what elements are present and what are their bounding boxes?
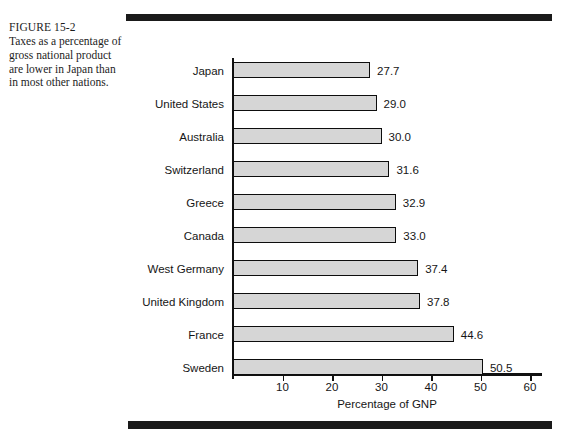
bar-row: West Germany37.4: [0, 258, 578, 280]
bar-category-label: Japan: [64, 60, 224, 82]
bar: [233, 95, 377, 111]
bar: [233, 260, 418, 276]
bar-chart: Japan27.7United States29.0Australia30.0S…: [0, 0, 578, 439]
bar-row: Canada33.0: [0, 225, 578, 247]
bar: [233, 293, 420, 309]
x-axis-tick-label: 10: [276, 381, 289, 393]
bar-category-label: United Kingdom: [64, 291, 224, 313]
bar-row: Sweden50.5: [0, 357, 578, 379]
bar-category-label: Sweden: [64, 357, 224, 379]
bar-row: United Kingdom37.8: [0, 291, 578, 313]
x-axis-tick-mark: [530, 374, 532, 381]
x-axis-tick-mark: [382, 374, 384, 381]
bar-category-label: Australia: [64, 126, 224, 148]
bar: [233, 194, 396, 210]
bar-value-label: 44.6: [461, 324, 483, 346]
x-axis-tick-label: 40: [425, 381, 438, 393]
bar-row: Australia30.0: [0, 126, 578, 148]
bar: [233, 161, 389, 177]
x-axis-tick-mark: [481, 374, 483, 381]
x-axis-tick-mark: [283, 374, 285, 381]
bar-row: France44.6: [0, 324, 578, 346]
bar-category-label: West Germany: [64, 258, 224, 280]
bar-value-label: 37.4: [425, 258, 447, 280]
bar-category-label: Greece: [64, 192, 224, 214]
bar-value-label: 27.7: [377, 60, 399, 82]
x-axis-tick-mark: [332, 374, 334, 381]
bar-value-label: 32.9: [403, 192, 425, 214]
bar-row: Switzerland31.6: [0, 159, 578, 181]
bar-value-label: 37.8: [427, 291, 449, 313]
x-axis-title: Percentage of GNP: [232, 398, 542, 410]
bar-value-label: 29.0: [384, 93, 406, 115]
bar-row: Japan27.7: [0, 60, 578, 82]
bar-category-label: Canada: [64, 225, 224, 247]
bar-value-label: 33.0: [403, 225, 425, 247]
figure-container: FIGURE 15-2 Taxes as a percentage of gro…: [0, 0, 578, 439]
x-axis-tick-label: 50: [474, 381, 487, 393]
bar-row: Greece32.9: [0, 192, 578, 214]
bar: [233, 359, 483, 375]
bar-row: United States29.0: [0, 93, 578, 115]
x-axis-tick-label: 30: [375, 381, 388, 393]
x-axis-tick-label: 60: [524, 381, 537, 393]
bar-category-label: Switzerland: [64, 159, 224, 181]
bottom-rule-decoration: [128, 421, 552, 429]
bar-value-label: 31.6: [396, 159, 418, 181]
x-axis-tick-label: 20: [326, 381, 339, 393]
bar: [233, 62, 370, 78]
bar-category-label: France: [64, 324, 224, 346]
bar: [233, 128, 382, 144]
bar-value-label: 30.0: [389, 126, 411, 148]
bar: [233, 326, 454, 342]
bar-category-label: United States: [64, 93, 224, 115]
bar: [233, 227, 396, 243]
bar-value-label: 50.5: [490, 357, 512, 379]
x-axis-tick-mark: [431, 374, 433, 381]
